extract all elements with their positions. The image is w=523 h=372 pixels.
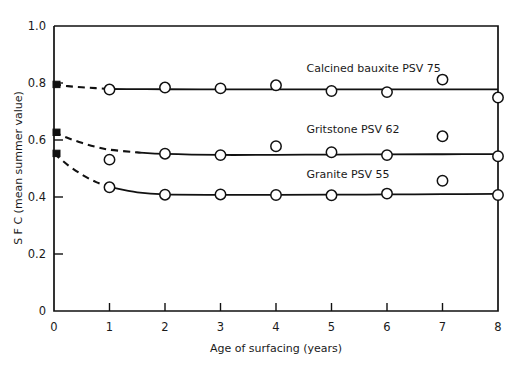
x-tick-label: 8 <box>494 320 501 334</box>
data-point-marker <box>104 84 114 94</box>
data-point-marker <box>493 92 503 102</box>
x-axis-tick-marks <box>110 303 443 311</box>
y-tick-label: 0 <box>39 304 46 318</box>
data-point-markers <box>104 74 503 200</box>
data-point-marker <box>271 190 281 200</box>
data-point-marker <box>215 83 225 93</box>
series-2-origin-cap <box>53 150 60 156</box>
series-0-extrapolated-curve <box>54 84 110 89</box>
data-point-marker <box>493 190 503 200</box>
data-point-marker <box>326 86 336 96</box>
series-2-extrapolated-curve <box>54 153 110 187</box>
series-curves <box>53 81 498 195</box>
x-tick-label: 6 <box>383 320 390 334</box>
series-1-origin-cap <box>53 129 60 135</box>
data-point-marker <box>382 150 392 160</box>
x-tick-label: 7 <box>439 320 446 334</box>
sfc-vs-age-line-chart: 012345678 00.20.40.60.81.0 Calcined baux… <box>0 0 523 372</box>
data-point-marker <box>104 182 114 192</box>
data-point-marker <box>104 154 114 164</box>
y-axis-tick-labels: 00.20.40.60.81.0 <box>28 19 46 318</box>
data-point-marker <box>382 87 392 97</box>
data-point-marker <box>437 176 447 186</box>
x-tick-label: 5 <box>328 320 335 334</box>
x-tick-label: 4 <box>272 320 279 334</box>
x-tick-label: 0 <box>50 320 57 334</box>
x-axis-tick-labels: 012345678 <box>50 320 501 334</box>
y-tick-label: 0.2 <box>28 247 46 261</box>
x-tick-label: 2 <box>161 320 168 334</box>
series-0-origin-cap <box>53 81 60 87</box>
data-point-marker <box>437 131 447 141</box>
series-label-2: Granite PSV 55 <box>307 168 390 181</box>
data-point-marker <box>493 151 503 161</box>
x-tick-label: 3 <box>217 320 224 334</box>
data-point-marker <box>215 189 225 199</box>
y-tick-label: 0.4 <box>28 190 46 204</box>
data-point-marker <box>271 141 281 151</box>
series-1-fitted-curve <box>140 153 498 155</box>
series-1-extrapolated-curve <box>54 132 140 152</box>
data-point-marker <box>326 147 336 157</box>
y-axis-title: S F C (mean summer value) <box>12 91 25 245</box>
x-axis-title: Age of surfacing (years) <box>210 342 342 355</box>
data-point-marker <box>437 74 447 84</box>
data-point-marker <box>160 82 170 92</box>
chart-figure: 012345678 00.20.40.60.81.0 Calcined baux… <box>0 0 523 372</box>
series-label-1: Gritstone PSV 62 <box>307 123 400 136</box>
data-point-marker <box>326 190 336 200</box>
y-tick-label: 0.6 <box>28 133 46 147</box>
y-axis-tick-marks <box>54 83 63 254</box>
data-point-marker <box>382 188 392 198</box>
x-tick-label: 1 <box>106 320 113 334</box>
y-tick-label: 1.0 <box>28 19 46 33</box>
y-tick-label: 0.8 <box>28 76 46 90</box>
series-annotations: Calcined bauxite PSV 75Gritstone PSV 62G… <box>307 62 441 181</box>
data-point-marker <box>160 190 170 200</box>
data-point-marker <box>160 148 170 158</box>
series-label-0: Calcined bauxite PSV 75 <box>307 62 441 75</box>
data-point-marker <box>215 150 225 160</box>
data-point-marker <box>271 80 281 90</box>
